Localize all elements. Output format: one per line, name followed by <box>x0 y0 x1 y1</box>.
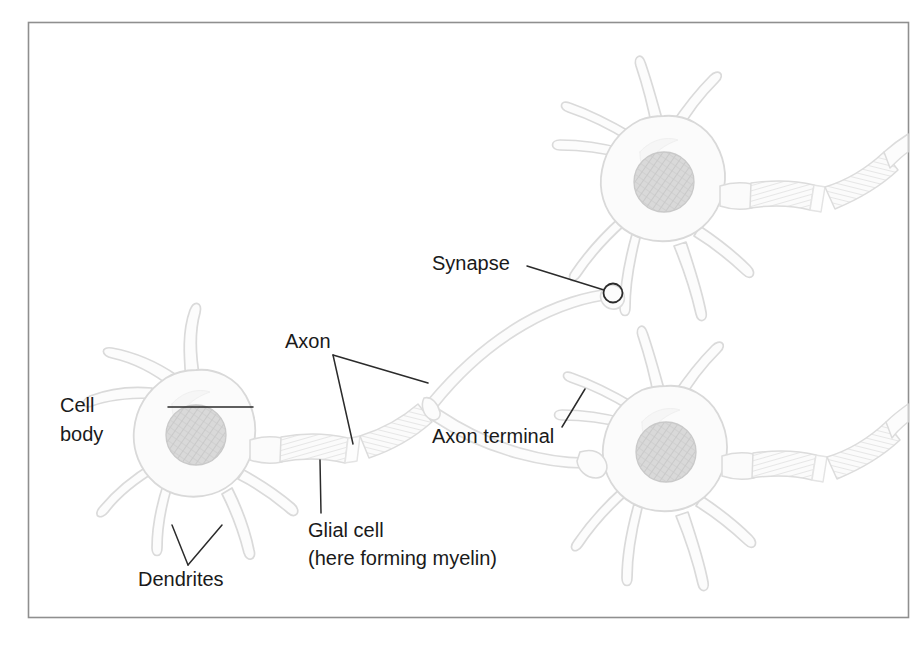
synapse-label: Synapse <box>432 252 510 274</box>
cell-body-label-line1: Cell <box>60 394 94 416</box>
diagram-canvas: Synapse Axon Cell body Axon terminal Gli… <box>0 0 920 654</box>
nucleus-bottom-right <box>636 422 696 482</box>
glial-cell-label-line2: (here forming myelin) <box>308 547 497 569</box>
cell-body-label-line2: body <box>60 423 103 445</box>
myelin-segment <box>280 434 348 463</box>
axon-terminal-label: Axon terminal <box>432 425 554 447</box>
glial-cell-label-line1: Glial cell <box>308 519 384 541</box>
leader-glial-cell <box>320 460 321 513</box>
neuron-diagram-figure: Synapse Axon Cell body Axon terminal Gli… <box>0 0 920 654</box>
dendrites-label: Dendrites <box>138 568 224 590</box>
nucleus-left <box>166 405 226 465</box>
nucleus-top-right <box>634 152 694 212</box>
myelin-segment <box>752 451 816 480</box>
axon-label: Axon <box>285 330 331 352</box>
myelin-segment <box>750 181 814 210</box>
